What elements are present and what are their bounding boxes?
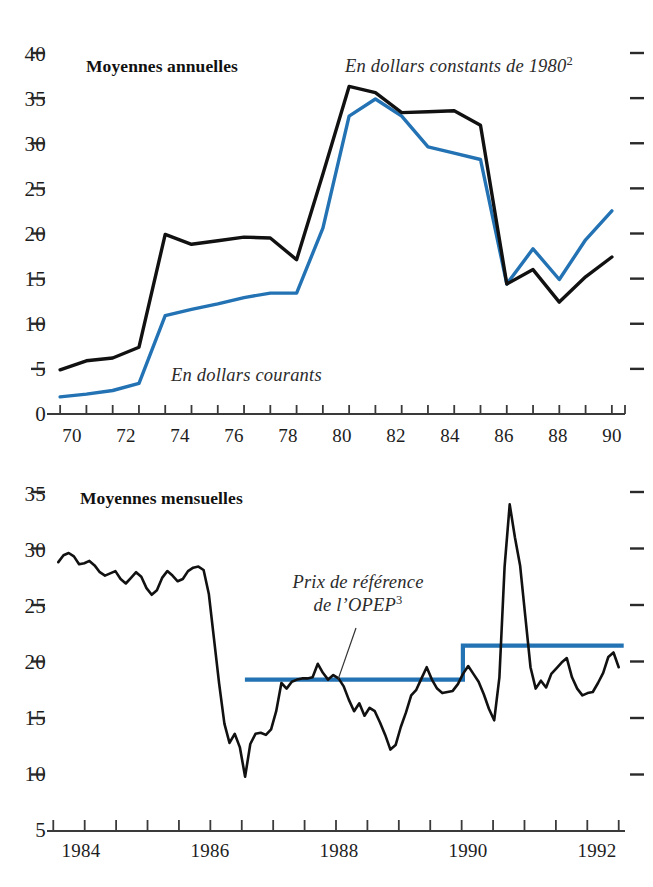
monthly-series-group [58,504,623,776]
monthly-left-tickmarks [31,492,45,775]
monthly-averages-chart: Moyennes mensuelles Prix de référencede … [0,450,653,887]
annual-left-tickmarks [31,53,45,369]
annual-averages-chart: Moyennes annuelles En dollars constants … [0,18,653,438]
opec-label-leader-line [338,628,356,680]
series-monthly-spot [58,504,618,776]
annual-axis-group [31,53,644,414]
annual-plot-area [0,18,653,438]
monthly-axis-group [31,492,644,831]
monthly-plot-area [0,450,653,887]
annual-right-tickmarks [630,53,644,369]
series-current-dollars [60,99,612,397]
oil-price-figure: Moyennes annuelles En dollars constants … [0,0,653,887]
series-constant-dollars [60,86,612,369]
monthly-x-tickmarks [53,820,618,831]
annual-x-tickmarks [60,405,625,414]
monthly-right-tickmarks [630,492,644,775]
annual-series-group [60,86,612,397]
